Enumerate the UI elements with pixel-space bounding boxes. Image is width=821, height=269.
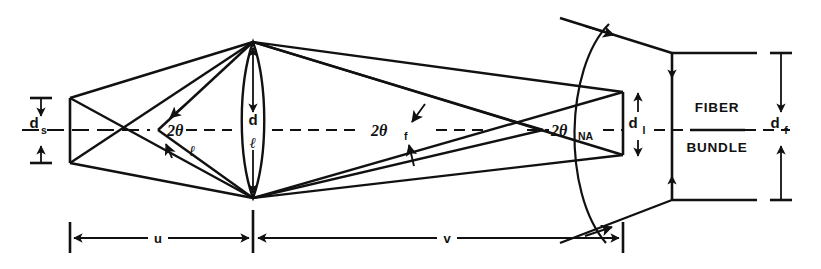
fiber-diameter-subscript: f (784, 124, 788, 136)
fiber-bundle-label-line2: BUNDLE (686, 140, 747, 155)
image-diameter-label: d (628, 114, 637, 131)
ray-bundle-image-space (253, 42, 623, 198)
optical-diagram-svg: d ℓ FIBER BUNDLE (0, 0, 821, 269)
optical-diagram-figure: d ℓ FIBER BUNDLE (0, 0, 821, 269)
image-diameter-subscript: I (643, 124, 646, 136)
source-diameter-label: d (29, 114, 38, 131)
image-distance-dimension (258, 222, 623, 253)
angle-fiber-leaders (409, 104, 425, 166)
ray-bundle-object-space (70, 42, 253, 198)
angle-lens-label: 2θ (166, 122, 184, 139)
object-distance-label: u (154, 231, 162, 246)
angle-na-label: 2θ (550, 122, 568, 139)
angle-lens-subscript: ℓ (189, 143, 195, 159)
source-diameter-subscript: s (41, 124, 47, 136)
fiber-bundle-label-line1: FIBER (695, 100, 740, 115)
fiber-diameter-label: d (770, 114, 779, 131)
angle-na-subscript: NA (578, 130, 594, 142)
lens-diameter-subscript: ℓ (250, 135, 256, 151)
fiber-bundle (672, 53, 757, 200)
angle-fiber-subscript: f (404, 130, 408, 142)
lens-diameter-label: d (248, 111, 257, 128)
angle-fiber-label: 2θ (370, 122, 388, 139)
image-distance-label: v (443, 231, 451, 246)
